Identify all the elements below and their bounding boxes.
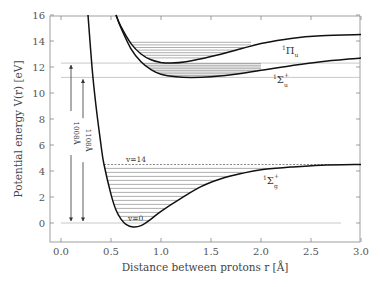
x-tick-label: 1.0 <box>153 246 169 257</box>
y-tick-label: 4 <box>39 166 45 177</box>
y-tick-label: 6 <box>39 140 45 151</box>
x-tick-label: 3.0 <box>353 246 369 257</box>
sigma-g-main: Σ <box>267 175 274 186</box>
pi-u-main: Π <box>286 45 295 56</box>
x-axis-label: Distance between protons r [Å] <box>122 260 289 273</box>
x-tick-labels: 0.00.51.01.52.02.53.0 <box>53 246 369 257</box>
y-tick-labels: 0246810121416 <box>32 10 45 229</box>
x-tick-label: 1.5 <box>203 246 219 257</box>
sigma-u-label: 1Σ+u <box>273 71 289 88</box>
x-tick-label: 0.0 <box>53 246 69 257</box>
ground-state-curve <box>88 15 361 227</box>
pi-u-label: 1Πu <box>282 44 299 58</box>
v14-label: v=14 <box>125 155 146 164</box>
axis-ticks <box>50 15 361 242</box>
sigma-u-curve <box>116 15 361 77</box>
y-tick-label: 14 <box>32 36 45 47</box>
reference-lines <box>61 63 360 223</box>
sigma-u-main: Σ <box>277 74 284 85</box>
x-tick-label: 0.5 <box>103 246 119 257</box>
vibrational-levels <box>104 42 341 220</box>
x-tick-label: 2.0 <box>253 246 269 257</box>
sigma-u-sup: + <box>284 71 289 78</box>
potential-energy-chart: 0.00.51.01.52.02.53.0 0246810121416 1008… <box>0 0 380 287</box>
pi-u-sub: u <box>295 51 299 58</box>
x-tick-label: 2.5 <box>303 246 319 257</box>
y-tick-label: 16 <box>32 10 45 21</box>
transition-arrows: 1008Å1108Å <box>71 65 93 221</box>
sigma-u-sub: u <box>284 81 288 88</box>
sigma-g-label: 1Σ+g <box>263 172 279 190</box>
y-tick-label: 10 <box>32 88 45 99</box>
sigma-g-sup: + <box>274 172 279 179</box>
potential-curves <box>88 15 361 227</box>
y-tick-label: 8 <box>39 114 45 125</box>
y-tick-label: 2 <box>39 192 45 203</box>
y-axis-label: Potential energy V(r) [eV] <box>12 60 24 197</box>
arrow-1008-label: 1008Å <box>72 122 81 146</box>
sigma-g-sub: g <box>274 182 278 190</box>
y-tick-label: 0 <box>39 218 45 229</box>
v0-label: v=0 <box>127 214 144 223</box>
arrow-1108-label: 1108Å <box>84 129 93 153</box>
pi-u-curve <box>116 15 361 63</box>
y-tick-label: 12 <box>32 62 45 73</box>
